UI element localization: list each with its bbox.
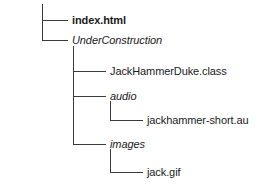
tree-trunk-level-3-images bbox=[110, 149, 111, 172]
tree-connector-jackhammerduke-class bbox=[73, 71, 106, 72]
tree-node-audio: audio bbox=[110, 90, 136, 102]
file-tree-diagram: index.html UnderConstruction JackHammerD… bbox=[0, 0, 261, 190]
tree-node-images: images bbox=[110, 138, 145, 150]
tree-connector-images bbox=[73, 144, 106, 145]
tree-node-jack-gif: jack.gif bbox=[147, 166, 180, 178]
tree-trunk-level-1 bbox=[42, 4, 43, 41]
tree-connector-audio bbox=[73, 96, 106, 97]
tree-trunk-level-3-audio bbox=[110, 101, 111, 120]
tree-connector-index-html bbox=[42, 20, 68, 21]
tree-connector-jack-gif bbox=[110, 172, 143, 173]
tree-connector-jackhammer-short-au bbox=[110, 120, 143, 121]
tree-node-index-html: index.html bbox=[72, 14, 126, 26]
tree-connector-underconstruction bbox=[42, 40, 68, 41]
tree-node-jackhammer-short-au: jackhammer-short.au bbox=[147, 114, 248, 126]
tree-node-jackhammerduke-class: JackHammerDuke.class bbox=[110, 65, 227, 77]
tree-node-underconstruction: UnderConstruction bbox=[72, 34, 162, 46]
